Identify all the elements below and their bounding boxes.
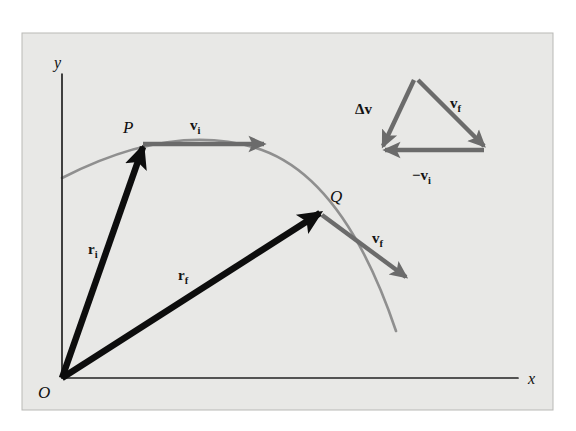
- origin-label: O: [38, 383, 50, 402]
- point-label-Q: Q: [330, 187, 342, 206]
- projectile-motion-diagram: x y O PQ rirfvivfvf−viΔv: [0, 0, 576, 431]
- figure-container: x y O PQ rirfvivfvf−viΔv: [0, 0, 576, 431]
- y-axis-label: y: [52, 54, 62, 72]
- x-axis-label: x: [527, 370, 535, 387]
- triangle-label-tri_delta_v: Δv: [355, 101, 372, 117]
- point-label-P: P: [122, 118, 133, 137]
